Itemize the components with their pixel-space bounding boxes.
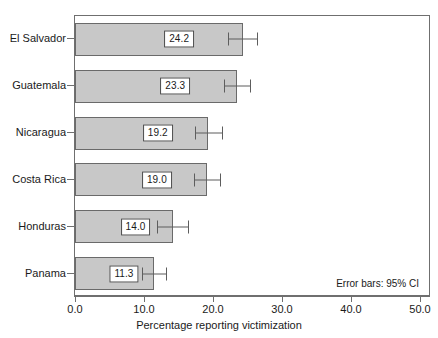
bar-value-label: 24.2	[164, 31, 194, 48]
error-bar-cap-low	[195, 127, 196, 140]
bar[interactable]	[75, 23, 243, 56]
bar-value-label: 11.3	[109, 265, 138, 282]
x-axis-tick-label: 50.0	[409, 303, 430, 316]
error-bar-annotation: Error bars: 95% CI	[336, 278, 419, 290]
error-bar-line	[157, 226, 187, 227]
plot-area: 24.223.319.219.014.011.3 Error bars: 95%…	[74, 15, 430, 296]
x-axis-tick	[282, 296, 283, 302]
category-label-panama: Panama	[25, 266, 66, 279]
bar-row: 24.2	[75, 23, 431, 56]
error-bar-cap-low	[194, 173, 195, 186]
category-tick	[67, 226, 74, 227]
category-label-guatemala: Guatemala	[12, 79, 66, 92]
bar[interactable]	[75, 70, 237, 103]
error-bar-cap-high	[188, 220, 189, 233]
error-bar-cap-high	[166, 267, 167, 280]
x-axis-tick-label: 10.0	[133, 303, 154, 316]
category-tick	[67, 273, 74, 274]
error-bar-cap-high	[257, 33, 258, 46]
error-bar-cap-high	[220, 173, 221, 186]
x-axis-tick-label: 0.0	[67, 303, 82, 316]
x-axis-line	[74, 296, 430, 297]
x-axis-tick	[75, 296, 76, 302]
category-label-nicaragua: Nicaragua	[16, 126, 66, 139]
error-bar-cap-high	[250, 80, 251, 93]
x-axis-title: Percentage reporting victimization	[0, 319, 438, 332]
x-axis-tick	[144, 296, 145, 302]
x-axis-tick	[213, 296, 214, 302]
bar-value-label: 19.2	[143, 125, 173, 142]
category-label-costa-rica: Costa Rica	[12, 172, 66, 185]
category-label-honduras: Honduras	[18, 219, 66, 232]
category-tick	[67, 132, 74, 133]
bar-row: 19.2	[75, 117, 431, 150]
x-axis-tick-label: 40.0	[340, 303, 361, 316]
category-label-el-salvador: El Salvador	[10, 32, 66, 45]
error-bar-cap-low	[224, 80, 225, 93]
error-bar-cap-low	[142, 267, 143, 280]
bar-row: 19.0	[75, 163, 431, 196]
bar-value-label: 14.0	[121, 218, 151, 235]
bar-value-label: 19.0	[142, 171, 172, 188]
x-axis-tick-label: 20.0	[202, 303, 223, 316]
bar-row: 23.3	[75, 70, 431, 103]
error-bar-line	[228, 39, 257, 40]
error-bar-cap-low	[228, 33, 229, 46]
bar-chart: 24.223.319.219.014.011.3 Error bars: 95%…	[0, 0, 438, 338]
bar-value-label: 23.3	[160, 78, 190, 95]
error-bar-line	[194, 179, 220, 180]
error-bar-cap-low	[157, 220, 158, 233]
error-bar-line	[142, 273, 167, 274]
category-tick	[67, 38, 74, 39]
error-bar-line	[224, 86, 250, 87]
x-axis-tick	[351, 296, 352, 302]
bar-row: 14.0	[75, 210, 431, 243]
x-axis-tick-label: 30.0	[271, 303, 292, 316]
x-axis-tick	[420, 296, 421, 302]
error-bar-cap-high	[222, 127, 223, 140]
bar[interactable]	[75, 117, 208, 150]
category-tick	[67, 179, 74, 180]
error-bar-line	[195, 133, 221, 134]
category-tick	[67, 85, 74, 86]
